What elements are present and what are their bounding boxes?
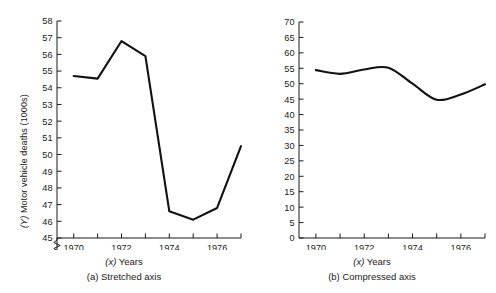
x-axis-tick-label: 1974 [159,243,179,250]
x-axis-tick-label: 1976 [451,243,471,250]
data-series-line [316,67,485,100]
y-axis-tick-label: 60 [284,48,294,58]
stretched-axis-plot: 4546474849505152535455565758197019721974… [0,0,248,250]
y-axis-tick-label: 53 [42,100,52,110]
y-axis-tick-label: 49 [42,167,52,177]
x-axis-label-a: (x) Years [0,256,248,267]
data-series-line [74,41,241,220]
x-axis-tick-label: 1974 [402,243,422,250]
y-axis-tick-label: 35 [284,125,294,135]
y-axis-tick-label: 54 [42,83,52,93]
x-axis-tick-label: 1976 [207,243,227,250]
y-axis-tick-label: 40 [284,110,294,120]
y-axis-tick-label: 48 [42,183,52,193]
y-axis-tick-label: 52 [42,117,52,127]
y-axis-label-a: (Y) Motor vehicle deaths (1000s) [19,94,29,228]
y-axis-tick-label: 51 [42,133,52,143]
y-axis-tick-label: 56 [42,50,52,60]
y-axis-tick-label: 55 [42,66,52,76]
y-axis-tick-label: 50 [284,79,294,89]
x-axis-tick-label: 1972 [354,243,374,250]
panel-caption-a: (a) Stretched axis [0,271,248,282]
y-axis-tick-label: 57 [42,33,52,43]
y-axis-tick-label: 70 [284,17,294,27]
x-axis-tick-label: 1970 [64,243,84,250]
x-axis-tick-label: 1972 [111,243,131,250]
panel-caption-b: (b) Compressed axis [248,271,496,282]
y-axis-tick-label: 0 [289,233,294,243]
y-axis-tick-label: 25 [284,156,294,166]
y-axis-label-a-text: Motor vehicle deaths (1000s) [19,94,29,213]
y-axis-tick-label: 5 [289,218,294,228]
y-axis-tick-label: 46 [42,217,52,227]
x-axis-label-b-text: Years [367,256,391,267]
y-axis-tick-label: 15 [284,187,294,197]
chart-panel-compressed-axis: 0510152025303540455055606570197019721974… [248,0,496,293]
y-axis-tick-label: 45 [42,233,52,243]
y-axis-tick-label: 30 [284,141,294,151]
y-axis-tick-label: 45 [284,95,294,105]
y-axis-tick-label: 65 [284,33,294,43]
x-axis-label-a-text: Years [119,256,143,267]
chart-panel-stretched-axis: 4546474849505152535455565758197019721974… [0,0,248,293]
y-axis-tick-label: 10 [284,203,294,213]
y-axis-tick-label: 58 [42,16,52,26]
figure-container: 4546474849505152535455565758197019721974… [0,0,496,293]
y-axis-tick-label: 47 [42,200,52,210]
y-axis-tick-label: 55 [284,64,294,74]
compressed-axis-plot: 0510152025303540455055606570197019721974… [248,0,496,250]
x-axis-label-b: (x) Years [248,256,496,267]
y-axis-tick-label: 20 [284,172,294,182]
x-axis-tick-label: 1970 [306,243,326,250]
y-axis-tick-label: 50 [42,150,52,160]
